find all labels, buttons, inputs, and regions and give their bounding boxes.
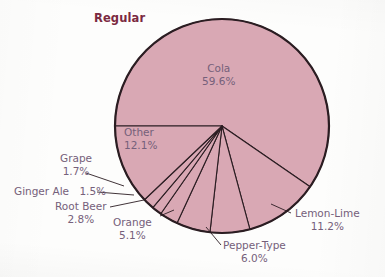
slice-label-orange: Orange 5.1% (113, 216, 152, 241)
slice-label-root-beer-name: Root Beer (55, 200, 107, 212)
pie-chart: Regular Cola 59.6% Other 12.1% Grape 1.7… (0, 0, 385, 277)
slice-label-grape-value: 1.7% (60, 165, 92, 178)
pie-graphic (0, 0, 385, 277)
slice-label-grape: Grape 1.7% (60, 152, 92, 177)
leader-line-root-beer (110, 200, 144, 207)
slice-label-orange-name: Orange (113, 216, 152, 228)
slice-label-lemon-lime-value: 11.2% (295, 220, 360, 233)
slice-label-orange-value: 5.1% (113, 229, 152, 242)
slice-label-root-beer: Root Beer 2.8% (55, 200, 107, 225)
slice-label-pepper-type-name: Pepper-Type (223, 239, 286, 251)
slice-label-pepper-type: Pepper-Type 6.0% (223, 239, 286, 264)
slice-label-pepper-type-value: 6.0% (223, 252, 286, 265)
slice-label-other: Other 12.1% (124, 126, 157, 151)
slice-label-other-value: 12.1% (124, 139, 157, 152)
slice-label-root-beer-value: 2.8% (55, 213, 107, 226)
slice-label-other-name: Other (124, 126, 154, 138)
slice-label-cola: Cola 59.6% (202, 62, 235, 87)
slice-label-lemon-lime: Lemon-Lime 11.2% (295, 207, 360, 232)
slice-label-ginger-ale: Ginger Ale 1.5% (14, 185, 106, 198)
chart-title: Regular (94, 11, 145, 25)
slice-label-cola-value: 59.6% (202, 75, 235, 88)
slice-label-lemon-lime-name: Lemon-Lime (295, 207, 360, 219)
slice-label-cola-name: Cola (207, 62, 230, 74)
slice-label-ginger-ale-value: 1.5% (79, 185, 106, 197)
slice-label-grape-name: Grape (60, 152, 92, 164)
slice-label-ginger-ale-name: Ginger Ale (14, 185, 69, 197)
